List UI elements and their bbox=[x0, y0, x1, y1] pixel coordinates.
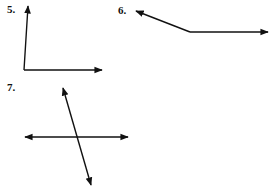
angle-6 bbox=[136, 11, 268, 32]
intersecting-lines-7 bbox=[25, 88, 128, 185]
geometry-figures bbox=[0, 0, 273, 187]
ray-6-left bbox=[136, 11, 190, 32]
angle-5 bbox=[24, 6, 102, 70]
ray-5-up bbox=[24, 6, 28, 70]
